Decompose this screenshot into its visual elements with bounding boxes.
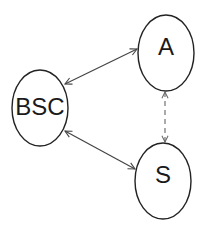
- node-s-label: S: [155, 161, 171, 188]
- node-a: A: [138, 15, 194, 91]
- edge-bsc-s: [65, 131, 135, 169]
- node-s: S: [135, 143, 191, 219]
- edge-bsc-a: [65, 49, 137, 84]
- diagram-canvas: BSC A S: [0, 0, 205, 230]
- node-bsc: BSC: [12, 70, 68, 146]
- node-a-label: A: [158, 33, 174, 60]
- node-bsc-label: BSC: [15, 93, 64, 120]
